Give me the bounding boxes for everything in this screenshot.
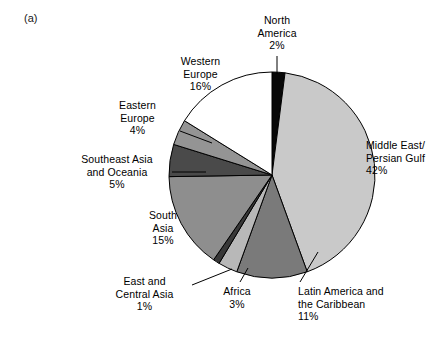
pie-slice-label-text: Latin America and the Caribbean [298,285,408,310]
figure-panel: (a) North America2%Middle East/ Persian … [0,0,446,340]
pie-slice-label: North America2% [242,14,312,52]
pie-slice-label-text: South Asia [133,209,193,234]
pie-slice-value: 16% [163,80,238,93]
leader-line [192,269,232,285]
pie-slice-label: Western Europe16% [163,55,238,93]
pie-slice-value: 3% [212,298,262,311]
pie-slice-value: 11% [298,310,408,323]
pie-slice-label: Middle East/ Persian Gulf42% [366,139,446,177]
pie-slice-value: 5% [67,178,167,191]
pie-slice-label: East and Central Asia1% [102,275,187,313]
pie-slice-label-text: Middle East/ Persian Gulf [366,139,446,164]
pie-slice-label-text: Eastern Europe [100,99,175,124]
pie-slices [169,72,375,278]
pie-slice-value: 15% [133,234,193,247]
pie-slice-label: Eastern Europe4% [100,99,175,137]
pie-chart: North America2%Middle East/ Persian Gulf… [0,0,446,340]
pie-slice-value: 1% [102,300,187,313]
pie-slice-value: 42% [366,164,446,177]
pie-slice-label: Latin America and the Caribbean11% [298,285,408,323]
pie-slice-value: 2% [242,39,312,52]
pie-slice-label-text: Africa [212,285,262,298]
pie-slice-value: 4% [100,124,175,137]
pie-slice-label-text: East and Central Asia [102,275,187,300]
pie-slice-label: Southeast Asia and Oceania5% [67,153,167,191]
pie-slice-label: Africa3% [212,285,262,310]
pie-slice-label-text: Southeast Asia and Oceania [67,153,167,178]
pie-slice-label-text: North America [242,14,312,39]
pie-slice-label-text: Western Europe [163,55,238,80]
pie-slice-label: South Asia15% [133,209,193,247]
